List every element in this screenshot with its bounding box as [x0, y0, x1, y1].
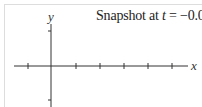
- snapshot-title: Snapshot at t = −0.02 s: [96, 8, 202, 24]
- x-axis-label: x: [191, 58, 197, 74]
- y-axis-label: y: [48, 9, 54, 25]
